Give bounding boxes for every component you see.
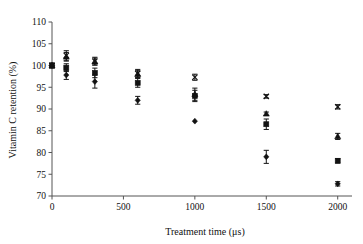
y-tick-label: 70	[37, 191, 47, 201]
y-tick-label: 95	[37, 83, 47, 93]
y-tick-label: 75	[37, 170, 47, 180]
scatter-plot: 0500100015002000 707580859095100105110 T…	[0, 0, 363, 244]
data-marker-square	[264, 122, 269, 127]
chart-figure: 0500100015002000 707580859095100105110 T…	[0, 0, 363, 244]
x-tick-label: 500	[116, 202, 131, 212]
x-tick-label: 1000	[185, 202, 204, 212]
y-tick-label: 105	[32, 39, 47, 49]
y-tick-label: 100	[32, 61, 47, 71]
x-tick-label: 2000	[328, 202, 347, 212]
plot-background	[0, 0, 363, 244]
y-tick-label: 80	[37, 148, 47, 158]
data-marker-square	[192, 93, 197, 98]
y-tick-label: 85	[37, 126, 47, 136]
y-axis-title: Vitamin C retention (%)	[7, 62, 19, 159]
data-marker-square	[135, 80, 140, 85]
data-marker-square	[335, 158, 340, 163]
y-tick-label: 90	[37, 104, 47, 114]
data-marker-square	[64, 65, 69, 70]
x-tick-label: 0	[50, 202, 55, 212]
x-tick-label: 1500	[257, 202, 276, 212]
y-tick-label: 110	[32, 17, 46, 27]
x-axis-title: Treatment time (μs)	[165, 226, 244, 238]
